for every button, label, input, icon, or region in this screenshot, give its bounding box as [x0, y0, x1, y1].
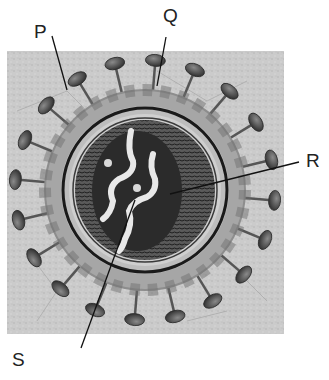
leader-line-q — [157, 37, 166, 86]
leader-line-r — [170, 162, 299, 194]
label-p: P — [34, 22, 47, 41]
leader-line-s — [81, 200, 135, 348]
label-q: Q — [163, 6, 178, 25]
leader-line-p — [52, 36, 67, 90]
leader-lines — [0, 0, 329, 380]
label-s: S — [12, 350, 25, 369]
label-r: R — [306, 151, 320, 170]
